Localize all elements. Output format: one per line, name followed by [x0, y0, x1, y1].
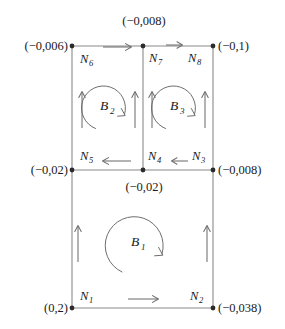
mesh-edges	[72, 46, 213, 308]
node-dot-N1	[70, 306, 75, 311]
coord-label-bottom-right: (−0,038)	[218, 301, 262, 315]
block-label-B2-base: B	[100, 98, 108, 113]
node-label-N7-base: N	[148, 51, 158, 65]
node-label-N1: N 1	[79, 289, 93, 305]
coord-label-top-right: (−0,1)	[218, 39, 249, 53]
coord-label-mid-middle: (−0,02)	[125, 180, 162, 194]
node-label-N4: N 4	[147, 149, 162, 165]
block-label-B1-base: B	[131, 234, 139, 249]
node-label-N8: N 8	[187, 51, 202, 67]
node-label-N6-sub: 6	[89, 58, 94, 68]
coord-label-mid-left: (−0,02)	[31, 163, 68, 177]
node-label-N2: N 2	[189, 289, 204, 305]
node-dot-N7	[141, 44, 146, 49]
arrow-b3-right-up	[202, 92, 208, 129]
block-label-B3-sub: 3	[179, 106, 185, 116]
node-label-N7: N 7	[148, 51, 163, 67]
block-label-B3: B 3	[170, 98, 185, 116]
node-dot-N4	[141, 168, 146, 173]
node-label-N6: N 6	[79, 52, 94, 68]
node-label-N4-base: N	[147, 149, 157, 163]
coord-label-mid-right: (−0,008)	[218, 163, 262, 177]
node-labels: N 6 N 7 N 8 N 5 N 4 N 3	[79, 51, 205, 305]
node-label-N3-base: N	[191, 149, 201, 163]
node-label-N6-base: N	[79, 52, 89, 66]
node-dot-N8	[211, 44, 216, 49]
arrow-bottom-right	[128, 296, 159, 303]
node-label-N8-base: N	[187, 51, 197, 65]
node-label-N5-base: N	[79, 149, 89, 163]
node-label-N3-sub: 3	[200, 155, 205, 165]
coord-label-top-left: (−0,006)	[25, 39, 69, 53]
block-label-B1: B 1	[131, 234, 146, 252]
arrow-top-left-right	[103, 44, 132, 51]
node-dot-N6	[70, 44, 75, 49]
node-label-N4-sub: 4	[157, 155, 162, 165]
horizontal-flow-arrows	[103, 42, 189, 303]
node-label-N2-base: N	[189, 289, 199, 303]
block-label-B1-sub: 1	[141, 242, 146, 252]
arrow-b1-left-up	[75, 226, 81, 263]
node-dot-N2	[211, 306, 216, 311]
node-label-N1-sub: 1	[89, 295, 93, 305]
node-dot-N3	[211, 168, 216, 173]
coord-label-bottom-left: (0,2)	[44, 301, 68, 315]
node-label-N7-sub: 7	[158, 57, 163, 67]
mesh-diagram-svg: (−0,006) (−0,008) (−0,1) (−0,02) (−0,02)…	[0, 0, 285, 329]
arrow-top-right-right	[166, 42, 183, 48]
arrow-b2-right-up	[132, 92, 138, 129]
block-label-B3-base: B	[170, 98, 178, 113]
coord-label-top-middle: (−0,008)	[122, 14, 166, 28]
diagram-canvas: (−0,006) (−0,008) (−0,1) (−0,02) (−0,02)…	[0, 0, 285, 329]
arrow-b1-right-up	[204, 226, 210, 263]
arrow-mid-right-left	[172, 158, 189, 164]
node-dot-N5	[70, 168, 75, 173]
node-label-N5: N 5	[79, 149, 93, 165]
block-label-B2-sub: 2	[110, 106, 115, 116]
block-label-B2: B 2	[100, 98, 115, 116]
node-label-N2-sub: 2	[199, 295, 204, 305]
node-label-N8-sub: 8	[197, 57, 202, 67]
node-label-N5-sub: 5	[89, 155, 93, 165]
node-label-N1-base: N	[79, 289, 89, 303]
node-label-N3: N 3	[191, 149, 205, 165]
arrow-mid-left-left	[103, 158, 132, 165]
